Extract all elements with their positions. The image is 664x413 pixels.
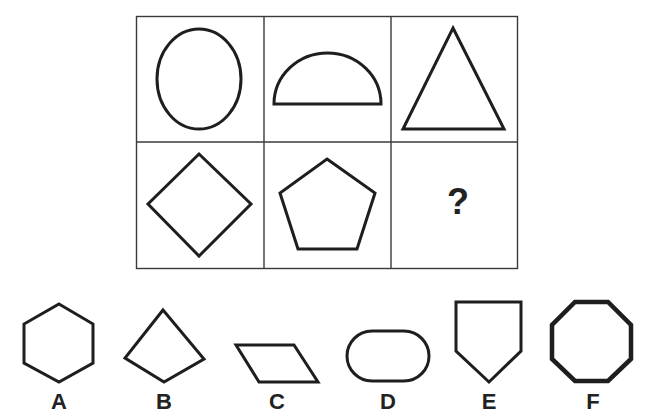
- option-b-kite[interactable]: [125, 310, 204, 382]
- option-e-shield[interactable]: [456, 302, 521, 382]
- option-f-label[interactable]: F: [573, 390, 613, 413]
- ellipse-shape: [157, 29, 241, 129]
- triangle-shape: [403, 28, 504, 129]
- option-f-octagon[interactable]: [552, 302, 631, 381]
- option-d-stadium[interactable]: [347, 331, 429, 381]
- option-a-label[interactable]: A: [39, 390, 79, 413]
- option-c-label[interactable]: C: [257, 390, 297, 413]
- missing-cell-question-mark: ?: [438, 182, 478, 222]
- option-b-label[interactable]: B: [144, 390, 184, 413]
- pentagon-shape: [280, 159, 375, 249]
- semicircle-shape: [274, 53, 381, 104]
- option-e-label[interactable]: E: [469, 390, 509, 413]
- option-a-hexagon[interactable]: [24, 304, 93, 382]
- option-d-label[interactable]: D: [368, 390, 408, 413]
- diamond-shape: [148, 154, 251, 256]
- option-c-parallelogram[interactable]: [236, 345, 318, 382]
- puzzle-canvas: [0, 0, 664, 413]
